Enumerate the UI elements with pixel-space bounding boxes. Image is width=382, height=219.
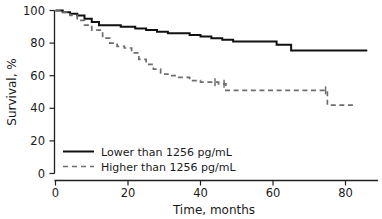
series-line-lower [56, 11, 368, 51]
x-axis-title: Time, months [172, 203, 255, 217]
y-tick-label-60: 60 [30, 69, 45, 83]
legend-label-lower: Lower than 1256 pg/mL [101, 146, 233, 159]
x-axis-tick-labels: 0 20 40 60 80 [52, 186, 353, 200]
y-axis-ticks [50, 11, 55, 174]
y-axis-tick-labels: 0 20 40 60 80 100 [23, 4, 45, 181]
x-tick-label-60: 60 [266, 186, 281, 200]
y-tick-label-20: 20 [30, 134, 45, 148]
y-tick-label-100: 100 [23, 4, 45, 18]
survival-chart: 0 20 40 60 80 100 0 20 40 60 80 Time, mo… [0, 0, 382, 219]
y-axis-title: Survival, % [5, 58, 19, 125]
legend-label-higher: Higher than 1256 pg/mL [101, 161, 236, 174]
y-tick-label-80: 80 [30, 36, 45, 50]
chart-canvas: 0 20 40 60 80 100 0 20 40 60 80 Time, mo… [0, 0, 382, 219]
y-tick-label-40: 40 [30, 101, 45, 115]
x-tick-label-80: 80 [338, 186, 353, 200]
censor-marks-group [215, 78, 326, 94]
x-tick-label-0: 0 [52, 186, 59, 200]
x-tick-label-40: 40 [193, 186, 208, 200]
x-tick-label-20: 20 [121, 186, 136, 200]
y-tick-label-0: 0 [38, 167, 45, 181]
x-axis-ticks [56, 181, 346, 186]
legend: Lower than 1256 pg/mL Higher than 1256 p… [63, 146, 236, 174]
